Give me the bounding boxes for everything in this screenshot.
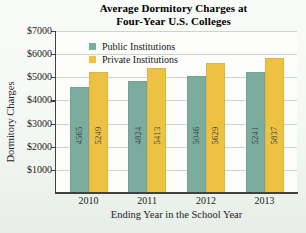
legend: Public Institutions Private Institutions [89, 40, 178, 66]
x-tick-label-2012: 2012 [186, 195, 226, 207]
x-axis-line [55, 192, 298, 194]
bar-value-label-2013-private: 5837 [269, 115, 280, 155]
bar-value-label-2011-private: 5413 [151, 115, 162, 155]
legend-label-private: Private Institutions [102, 53, 178, 66]
bar-value-label-2012-private: 5629 [210, 115, 221, 155]
y-tick-label-6000: $6000 [6, 48, 52, 60]
y-tick-label-5000: $5000 [6, 71, 52, 83]
legend-item-public: Public Institutions [89, 40, 178, 53]
legend-label-public: Public Institutions [102, 40, 175, 53]
chart-title-line1: Average Dormitory Charges at [46, 2, 301, 15]
chart-title-line2: Four-Year U.S. Colleges [46, 15, 301, 28]
y-tick-label-1000: $1000 [6, 164, 52, 176]
x-tick-label-2011: 2011 [127, 195, 167, 207]
y-tick-label-4000: $4000 [6, 94, 52, 106]
bar-value-label-2012-public: 5046 [191, 115, 202, 155]
chart-title: Average Dormitory Charges at Four-Year U… [46, 2, 301, 28]
y-tick-label-7000: $7000 [6, 25, 52, 37]
y-tick-label-2000: $2000 [6, 141, 52, 153]
bar-value-label-2013-public: 5241 [250, 115, 261, 155]
bar-value-label-2010-private: 5249 [93, 115, 104, 155]
dormitory-charges-bar-chart: Average Dormitory Charges at Four-Year U… [0, 0, 306, 233]
bar-value-label-2010-public: 4565 [74, 115, 85, 155]
legend-item-private: Private Institutions [89, 53, 178, 66]
x-axis-title: Ending Year in the School Year [56, 209, 297, 220]
x-tick-label-2013: 2013 [245, 195, 285, 207]
public-series-swatch-icon [89, 43, 96, 50]
x-tick-label-2010: 2010 [69, 195, 109, 207]
private-series-swatch-icon [89, 56, 96, 63]
bar-value-label-2011-public: 4824 [132, 115, 143, 155]
gridline-7000 [56, 31, 297, 32]
y-tick-label-3000: $3000 [6, 118, 52, 130]
